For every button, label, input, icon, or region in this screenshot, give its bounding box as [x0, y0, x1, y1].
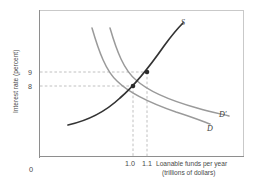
equilibrium-point-initial — [131, 84, 136, 89]
demand-shift-curve-label: D′ — [219, 110, 227, 119]
demand-curve-label: D — [207, 124, 213, 133]
x-axis-title: Loanable funds per year (trillions of do… — [156, 159, 252, 177]
supply-demand-figure: 9 8 1.0 1.1 0 Interest rate (percent) Lo… — [0, 0, 254, 192]
origin-label: 0 — [29, 166, 33, 173]
x-tick-label-1-0: 1.0 — [125, 160, 135, 167]
guide-lines — [40, 72, 147, 157]
y-tick-label-9: 9 — [28, 69, 32, 76]
x-axis-title-line2: (trillions of dollars) — [156, 168, 252, 177]
x-tick-label-1-1: 1.1 — [142, 160, 152, 167]
demand-curve-d — [92, 28, 210, 124]
equilibrium-point-new — [145, 70, 150, 75]
y-tick-label-8: 8 — [28, 83, 32, 90]
demand-curve-d-prime — [110, 28, 229, 116]
x-axis-title-line1: Loanable funds per year — [156, 160, 227, 167]
supply-curve-label: S — [181, 18, 185, 27]
supply-curve-s — [68, 23, 183, 125]
y-axis-title: Interest rate (percent) — [13, 29, 20, 133]
